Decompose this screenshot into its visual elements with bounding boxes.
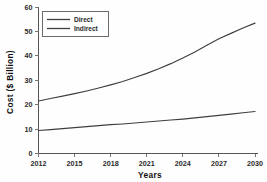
- y-tick-label: 0: [29, 149, 33, 158]
- y-tick-label: 30: [25, 76, 33, 85]
- x-tick-label: 2015: [67, 159, 83, 168]
- x-tick-label: 2027: [211, 159, 227, 168]
- x-axis-title: Years: [138, 170, 162, 180]
- y-tick-label: 50: [25, 27, 33, 36]
- y-axis-ticks: [35, 7, 39, 154]
- legend-label-indirect: Indirect: [74, 25, 99, 32]
- x-tick-label: 2024: [175, 159, 191, 168]
- y-tick-label: 10: [25, 125, 33, 134]
- y-axis-tick-labels: 0102030405060: [25, 3, 33, 159]
- chart-container: 0102030405060 20122015201820212024202720…: [0, 0, 267, 182]
- chart-legend: Direct Indirect: [43, 12, 109, 37]
- line-chart: 0102030405060 20122015201820212024202720…: [0, 0, 267, 182]
- series-line-indirect: [39, 112, 256, 131]
- x-axis-tick-labels: 2012201520182021202420272030: [31, 159, 264, 168]
- x-tick-label: 2012: [31, 159, 47, 168]
- x-tick-label: 2021: [139, 159, 155, 168]
- y-axis-title: Cost ($ Billion): [5, 50, 15, 114]
- x-tick-label: 2030: [247, 159, 263, 168]
- y-tick-label: 60: [25, 3, 33, 12]
- data-series-group: [39, 23, 256, 130]
- legend-label-direct: Direct: [74, 16, 93, 23]
- x-tick-label: 2018: [103, 159, 119, 168]
- y-tick-label: 20: [25, 100, 33, 109]
- x-axis-ticks: [39, 154, 256, 158]
- y-tick-label: 40: [25, 51, 33, 60]
